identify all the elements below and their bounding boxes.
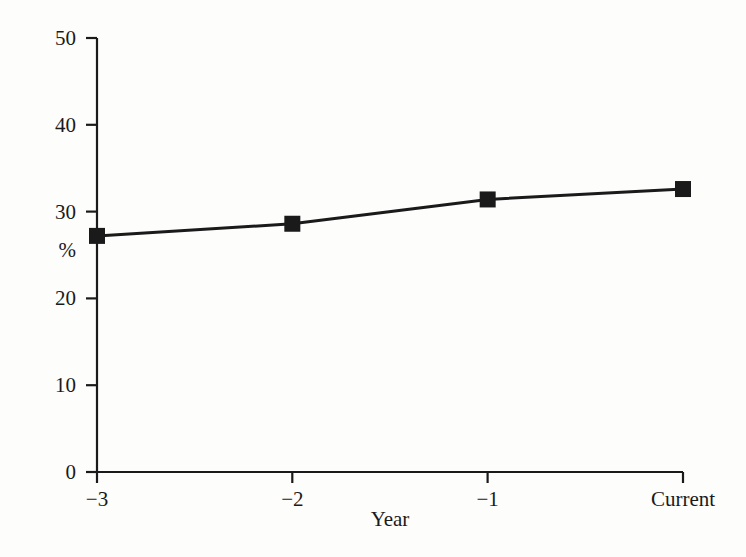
y-tick-label-50: 50 <box>16 28 76 49</box>
data-point-marker <box>480 191 496 207</box>
y-tick-label-10: 10 <box>16 375 76 396</box>
y-tick-label-40: 40 <box>16 115 76 136</box>
x-axis-ticks <box>97 472 683 483</box>
data-point-marker <box>89 228 105 244</box>
data-point-marker <box>675 181 691 197</box>
y-axis-ticks <box>86 38 97 472</box>
y-tick-label-0: 0 <box>16 462 76 483</box>
y-tick-label-20: 20 <box>16 288 76 309</box>
x-tick-label-minus3: −3 <box>27 489 167 510</box>
line-chart: 50 40 30 20 10 0 % −3 −2 −1 Current Year <box>0 0 746 557</box>
data-point-marker <box>284 216 300 232</box>
y-axis-title: % <box>16 240 76 261</box>
x-tick-label-minus2: −2 <box>222 489 362 510</box>
data-series-line <box>97 189 683 236</box>
chart-plot-area <box>0 0 746 557</box>
x-tick-label-current: Current <box>613 489 746 510</box>
y-tick-label-30: 30 <box>16 202 76 223</box>
x-tick-label-minus1: −1 <box>418 489 558 510</box>
x-axis-title: Year <box>320 509 460 530</box>
